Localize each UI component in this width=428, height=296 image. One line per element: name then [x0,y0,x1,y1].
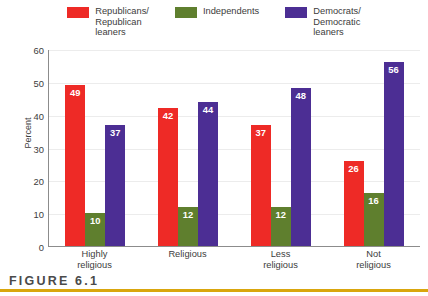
legend-swatch-independents [175,7,197,18]
bar-value-label: 49 [65,87,85,98]
legend-swatch-republicans [67,7,89,18]
bar[interactable]: 12 [178,207,198,246]
x-axis-label: Not religious [327,249,420,277]
bar-group: 491037 [49,50,142,246]
y-tick-label: 40 [0,110,44,121]
bar[interactable]: 56 [384,62,404,246]
legend-label-democrats: Democrats/ Democratic leaners [313,6,361,38]
bar-value-label: 12 [178,209,198,220]
bar[interactable]: 16 [364,193,384,246]
y-tick-label: 50 [0,77,44,88]
x-axis-category-labels: Highly religiousReligiousLess religiousN… [48,249,420,277]
bar[interactable]: 48 [291,88,311,246]
bar-group: 421244 [142,50,235,246]
legend-entry-independents: Independents [175,6,259,18]
bar-value-label: 37 [251,127,271,138]
bar[interactable]: 26 [344,161,364,246]
bar[interactable]: 37 [105,125,125,246]
legend-swatch-democrats [285,7,307,18]
bar[interactable]: 10 [85,213,105,246]
figure-caption: FIGURE 6.1 [9,274,99,288]
bar[interactable]: 49 [65,85,85,246]
plot-area: 491037421244371248261656 [48,50,420,247]
bar-group: 261656 [327,50,420,246]
chart-legend: Republicans/ Republican leaners Independ… [0,6,428,48]
bar-group: 371248 [235,50,328,246]
bar-value-label: 48 [291,90,311,101]
legend-label-republicans: Republicans/ Republican leaners [95,6,149,38]
bar-groups: 491037421244371248261656 [49,50,420,246]
bar-value-label: 44 [198,104,218,115]
bar-value-label: 10 [85,215,105,226]
y-tick-label: 20 [0,176,44,187]
y-tick-label: 30 [0,143,44,154]
y-tick-label: 60 [0,45,44,56]
x-axis-label: Highly religious [48,249,141,277]
bar-value-label: 42 [158,110,178,121]
bar[interactable]: 44 [198,102,218,246]
legend-entry-democrats: Democrats/ Democratic leaners [285,6,361,38]
legend-label-independents: Independents [203,6,259,17]
bar-value-label: 26 [344,163,364,174]
bar-value-label: 37 [105,127,125,138]
bar[interactable]: 37 [251,125,271,246]
bar[interactable]: 12 [271,207,291,246]
bar-value-label: 56 [384,64,404,75]
x-axis-label: Religious [141,249,234,277]
caption-rule [0,289,428,292]
bar-value-label: 12 [271,209,291,220]
y-axis-tick-labels: 0102030405060 [0,50,44,247]
legend-entry-republicans: Republicans/ Republican leaners [67,6,149,38]
x-axis-label: Less religious [234,249,327,277]
bar[interactable]: 42 [158,108,178,246]
bar-value-label: 16 [364,195,384,206]
y-tick-label: 0 [0,242,44,253]
y-tick-label: 10 [0,209,44,220]
